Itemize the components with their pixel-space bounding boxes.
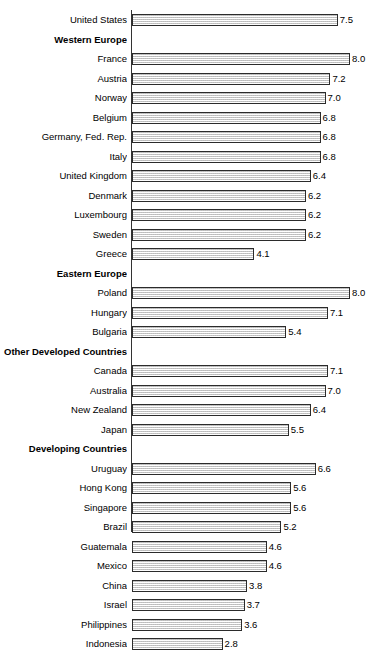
- bar: [132, 580, 247, 592]
- bar: [132, 326, 286, 338]
- bar-value-label: 4.6: [269, 537, 282, 557]
- bar-value-label: 5.2: [283, 517, 296, 537]
- bar: [132, 638, 223, 650]
- category-label: Norway: [0, 88, 127, 108]
- bar-value-label: 8.0: [352, 283, 365, 303]
- bar: [132, 463, 316, 475]
- bar-value-label: 3.8: [249, 576, 262, 596]
- bar-row: Guatemala4.6: [0, 537, 381, 557]
- category-label: Germany, Fed. Rep.: [0, 127, 127, 147]
- group-header-label: Other Developed Countries: [0, 342, 127, 362]
- bar-row: Greece4.1: [0, 244, 381, 264]
- bar-value-label: 5.6: [293, 498, 306, 518]
- bar-row: Uruguay6.6: [0, 459, 381, 479]
- category-label: Uruguay: [0, 459, 127, 479]
- bar-row: Mexico4.6: [0, 556, 381, 576]
- bar-value-label: 7.1: [330, 303, 343, 323]
- bar-value-label: 4.6: [269, 556, 282, 576]
- category-label: Japan: [0, 420, 127, 440]
- category-label: Singapore: [0, 498, 127, 518]
- bar-row: Singapore5.6: [0, 498, 381, 518]
- bar-row: Indonesia2.8: [0, 634, 381, 654]
- category-label: Belgium: [0, 108, 127, 128]
- category-label: Brazil: [0, 517, 127, 537]
- bar-value-label: 6.4: [313, 166, 326, 186]
- bar-value-label: 5.5: [291, 420, 304, 440]
- category-label: Hong Kong: [0, 478, 127, 498]
- bar-row: Hungary7.1: [0, 303, 381, 323]
- group-header-label: Developing Countries: [0, 439, 127, 459]
- bar: [132, 131, 321, 143]
- bar: [132, 599, 245, 611]
- bar-value-label: 6.4: [313, 400, 326, 420]
- group-header-row: Developing Countries: [0, 439, 381, 459]
- category-label: Austria: [0, 69, 127, 89]
- bar: [132, 248, 254, 260]
- bar: [132, 112, 321, 124]
- bar-row: Austria7.2: [0, 69, 381, 89]
- bar-value-label: 4.1: [256, 244, 269, 264]
- category-label: Israel: [0, 595, 127, 615]
- bar-value-label: 7.0: [328, 381, 341, 401]
- bar-row: Denmark6.2: [0, 186, 381, 206]
- bar-row: Sweden6.2: [0, 225, 381, 245]
- category-label: Australia: [0, 381, 127, 401]
- category-label: United Kingdom: [0, 166, 127, 186]
- bar-row: Israel3.7: [0, 595, 381, 615]
- bar: [132, 73, 330, 85]
- bar-value-label: 7.5: [340, 10, 353, 30]
- category-label: Italy: [0, 147, 127, 167]
- bar-value-label: 5.4: [288, 322, 301, 342]
- category-label: United States: [0, 10, 127, 30]
- bar-value-label: 5.6: [293, 478, 306, 498]
- bar: [132, 560, 267, 572]
- bar: [132, 404, 311, 416]
- bar-value-label: 3.6: [244, 615, 257, 635]
- bar: [132, 53, 350, 65]
- bar: [132, 151, 321, 163]
- bar-row: Italy6.8: [0, 147, 381, 167]
- bar-value-label: 6.8: [323, 147, 336, 167]
- bar-value-label: 6.2: [308, 225, 321, 245]
- bar: [132, 541, 267, 553]
- group-header-row: Western Europe: [0, 30, 381, 50]
- bar-value-label: 7.1: [330, 361, 343, 381]
- category-label: Greece: [0, 244, 127, 264]
- bar-value-label: 6.8: [323, 108, 336, 128]
- bar: [132, 307, 328, 319]
- bar-value-label: 8.0: [352, 49, 365, 69]
- bar-row: United States7.5: [0, 10, 381, 30]
- category-label: China: [0, 576, 127, 596]
- category-label: Bulgaria: [0, 322, 127, 342]
- bar: [132, 502, 291, 514]
- bar-value-label: 6.8: [323, 127, 336, 147]
- bar-row: Bulgaria5.4: [0, 322, 381, 342]
- bar-row: Norway7.0: [0, 88, 381, 108]
- bar-row: France8.0: [0, 49, 381, 69]
- bar: [132, 170, 311, 182]
- bar-row: Germany, Fed. Rep.6.8: [0, 127, 381, 147]
- group-header-label: Western Europe: [0, 30, 127, 50]
- bar-row: Canada7.1: [0, 361, 381, 381]
- bar: [132, 385, 326, 397]
- bar-row: China3.8: [0, 576, 381, 596]
- bar-row: Hong Kong5.6: [0, 478, 381, 498]
- bar: [132, 365, 328, 377]
- bar: [132, 521, 281, 533]
- category-label: Denmark: [0, 186, 127, 206]
- category-label: Hungary: [0, 303, 127, 323]
- bar: [132, 209, 306, 221]
- bar-row: Japan5.5: [0, 420, 381, 440]
- bar-row: Belgium6.8: [0, 108, 381, 128]
- bar: [132, 287, 350, 299]
- bar-value-label: 7.0: [328, 88, 341, 108]
- bar-value-label: 6.2: [308, 186, 321, 206]
- group-header-label: Eastern Europe: [0, 264, 127, 284]
- category-label: Guatemala: [0, 537, 127, 557]
- bar-value-label: 7.2: [332, 69, 345, 89]
- category-label: Poland: [0, 283, 127, 303]
- group-header-row: Other Developed Countries: [0, 342, 381, 362]
- bar-row: Brazil5.2: [0, 517, 381, 537]
- bar-value-label: 6.2: [308, 205, 321, 225]
